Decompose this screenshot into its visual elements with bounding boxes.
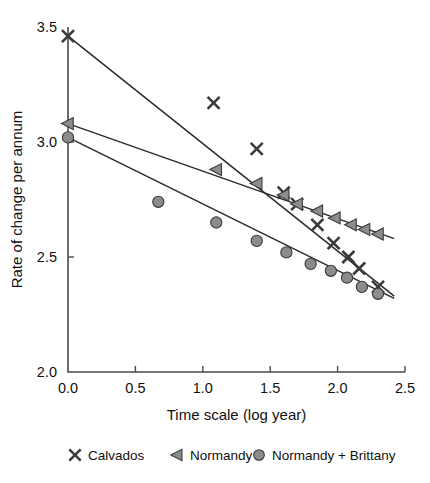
series-fit-line [68,36,394,296]
circle-marker-icon [211,217,222,228]
x-axis-title: Time scale (log year) [167,406,306,423]
circle-marker-icon [153,196,164,207]
circle-marker-icon [305,258,316,269]
legend-item: Calvados [69,448,144,463]
triangle-left-marker-icon [250,177,262,189]
y-tick-label: 2.0 [37,364,57,380]
x-marker-icon [251,143,263,155]
axis-frame [68,27,405,372]
chart-legend: CalvadosNormandyNormandy + Brittany [69,448,395,463]
legend-label: Normandy [190,448,253,463]
data-series [62,132,394,300]
data-series-group [62,30,395,299]
series-fit-line [68,124,394,239]
x-marker-icon [69,449,80,460]
legend-item: Normandy [171,448,253,463]
x-tick-label: 0.5 [125,380,145,396]
triangle-left-marker-icon [372,228,384,240]
triangle-left-marker-icon [345,219,357,231]
circle-marker-icon [62,132,73,143]
axis-group [68,27,405,372]
legend-label: Normandy + Brittany [272,448,396,463]
legend-item: Normandy + Brittany [254,448,396,463]
y-tick-label: 3.0 [37,134,57,150]
data-series [62,118,395,240]
x-marker-icon [311,219,323,231]
triangle-left-marker-icon [311,205,323,217]
triangle-left-marker-icon [358,223,370,235]
circle-marker-icon [372,288,383,299]
x-tick-label: 2.0 [328,380,348,396]
circle-marker-icon [341,272,352,283]
x-marker-icon [353,263,365,275]
x-marker-icon [208,97,220,109]
chart-container: 0.00.51.01.52.02.52.02.53.03.5Time scale… [0,0,430,483]
triangle-left-marker-icon [171,449,182,460]
circle-marker-icon [356,281,367,292]
circle-marker-icon [325,265,336,276]
x-tick-label: 1.5 [260,380,280,396]
chart-plot-area: 0.00.51.01.52.02.52.02.53.03.5Time scale… [0,0,430,483]
x-tick-label: 0.0 [58,380,78,396]
x-tick-label: 1.0 [193,380,213,396]
circle-marker-icon [251,235,262,246]
data-series [62,30,394,296]
y-tick-label: 2.5 [37,249,57,265]
x-tick-label: 2.5 [395,380,415,396]
legend-label: Calvados [88,448,145,463]
circle-marker-icon [281,247,292,258]
triangle-left-marker-icon [328,212,340,224]
y-axis-title: Rate of change per annum [8,111,25,289]
circle-marker-icon [254,450,265,461]
y-tick-label: 3.5 [37,19,57,35]
